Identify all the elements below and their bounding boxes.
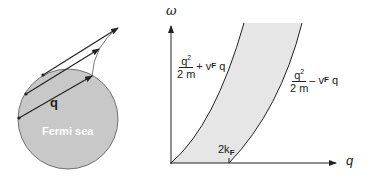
lower-curve-formula: q2 2 m – vF q bbox=[290, 66, 338, 94]
2kf-tick-label: 2kF bbox=[218, 143, 235, 157]
shifted-sphere-arc bbox=[92, 28, 118, 76]
arrow-start-dot bbox=[24, 92, 27, 95]
upper-curve-formula: q2 2 m + vF q bbox=[177, 52, 225, 80]
arrow-start-dot bbox=[17, 116, 20, 119]
vector-q-label: q bbox=[50, 95, 58, 110]
arrow-start-dot bbox=[41, 73, 44, 76]
omega-axis-label: ω bbox=[166, 3, 177, 18]
fermi-sea-circle bbox=[18, 69, 118, 169]
q-vector-arrow-top bbox=[43, 28, 118, 75]
fermi-sea-label: Fermi sea bbox=[42, 125, 93, 137]
q-axis-label: q bbox=[346, 153, 353, 168]
